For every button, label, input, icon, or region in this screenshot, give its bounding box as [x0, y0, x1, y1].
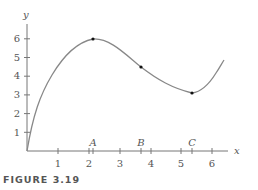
point-label-b: B — [136, 137, 144, 148]
chart: y x 1 2 3 4 5 6 1 2 3 4 5 6 A B — [0, 0, 258, 190]
x-tick-label: 4 — [148, 158, 154, 169]
y-tick-label: 6 — [14, 33, 20, 44]
figure-caption: FIGURE 3.19 — [3, 174, 80, 185]
curve — [27, 39, 224, 151]
x-axis-label: x — [234, 145, 240, 156]
y-axis-label: y — [22, 9, 29, 20]
point-label-a: A — [88, 137, 96, 148]
x-tick-label: 3 — [117, 158, 123, 169]
y-tick-label: 5 — [14, 52, 20, 63]
y-tick-label: 1 — [14, 127, 20, 138]
x-tick-label: 2 — [86, 158, 92, 169]
y-tick-label: 4 — [14, 70, 20, 81]
point-c — [190, 91, 193, 94]
point-b — [139, 65, 142, 68]
x-tick-label: 1 — [55, 158, 61, 169]
x-tick-label: 6 — [209, 158, 215, 169]
point-a — [91, 37, 94, 40]
point-label-c: C — [188, 137, 196, 148]
y-tick-label: 3 — [14, 89, 20, 100]
x-tick-label: 5 — [178, 158, 184, 169]
y-tick-label: 2 — [14, 108, 20, 119]
